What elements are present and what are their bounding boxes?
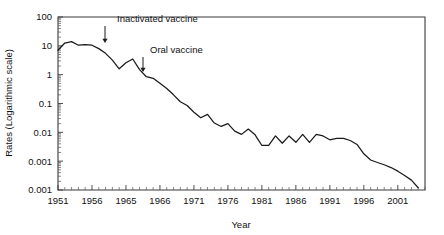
data-line-poliomyelitis-rate bbox=[58, 42, 418, 188]
y-tick-label: 1 bbox=[47, 69, 52, 80]
x-tick-label: 1976 bbox=[217, 195, 238, 206]
series-group bbox=[58, 42, 418, 188]
x-tick-label: 2001 bbox=[387, 195, 408, 206]
plot-frame bbox=[58, 17, 425, 190]
annotations: Inactivated vaccineOral vaccine bbox=[102, 13, 202, 72]
polio-rates-line-chart: 1001010.10.010.0010.001 1951195619651966… bbox=[0, 0, 444, 235]
y-tick-label: 0.01 bbox=[34, 127, 53, 138]
x-tick-label: 1996 bbox=[353, 195, 374, 206]
x-tick-label: 1965 bbox=[115, 195, 136, 206]
y-axis-title: Rates (Logarithmic scale) bbox=[3, 49, 14, 157]
x-tick-label: 1966 bbox=[149, 195, 170, 206]
y-tick-label: 0.001 bbox=[28, 184, 52, 195]
x-tick-label: 1981 bbox=[251, 195, 272, 206]
y-tick-label: 0.1 bbox=[39, 98, 52, 109]
x-axis-title: Year bbox=[231, 219, 250, 230]
y-tick-label: 0.001 bbox=[28, 156, 52, 167]
y-tick-label: 100 bbox=[36, 11, 52, 22]
chart-svg: 1001010.10.010.0010.001 1951195619651966… bbox=[0, 0, 444, 235]
x-tick-label: 1956 bbox=[81, 195, 102, 206]
x-tick-label: 1951 bbox=[47, 195, 68, 206]
y-tick-label: 10 bbox=[41, 40, 52, 51]
x-tick-label: 1971 bbox=[183, 195, 204, 206]
annotation-arrow-head bbox=[102, 39, 107, 43]
x-axis: 1951195619651966197119761981198619911996… bbox=[47, 185, 425, 206]
annotation-label: Inactivated vaccine bbox=[117, 13, 198, 24]
annotation-label: Oral vaccine bbox=[150, 44, 203, 55]
x-tick-label: 1991 bbox=[319, 195, 340, 206]
x-tick-label: 1986 bbox=[285, 195, 306, 206]
